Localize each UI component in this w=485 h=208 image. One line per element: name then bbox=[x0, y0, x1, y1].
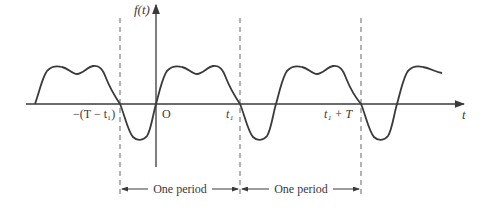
x-axis-label: t bbox=[462, 107, 466, 122]
periodic-function-diagram: f(t) t −(T − t₁) O t₁ t₁ + T One period … bbox=[0, 0, 485, 208]
period-label-1: One period bbox=[153, 182, 207, 196]
tick-label-t1: t₁ bbox=[226, 107, 234, 121]
period-label-2: One period bbox=[274, 182, 328, 196]
tick-label-t1-plus-T: t₁ + T bbox=[324, 107, 354, 121]
period-annotation-2: One period bbox=[242, 182, 359, 196]
waveform-curve bbox=[35, 66, 442, 140]
y-axis-label: f(t) bbox=[134, 2, 150, 17]
origin-label: O bbox=[162, 107, 171, 121]
tick-label-neg-t-minus-t1: −(T − t₁) bbox=[73, 107, 115, 121]
period-annotation-1: One period bbox=[122, 182, 238, 196]
